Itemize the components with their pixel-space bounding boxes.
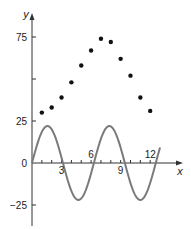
data-point [50, 105, 54, 109]
y-axis-label: y [22, 8, 30, 20]
y-tick-label: 75 [16, 32, 28, 43]
y-tick-label: −25 [10, 200, 27, 211]
x-tick-label: 6 [88, 149, 94, 160]
y-tick-label: 0 [21, 158, 27, 169]
data-point [59, 95, 63, 99]
y-axis-arrow-icon [30, 13, 35, 20]
chart: 3691275250−25xy [0, 0, 191, 229]
y-tick-label: 25 [16, 116, 28, 127]
tick-labels: 3691275250−25xy [10, 8, 183, 211]
data-point [40, 110, 44, 114]
data-point [69, 80, 73, 84]
data-point [118, 57, 122, 61]
data-point [79, 63, 83, 67]
data-point [109, 40, 113, 44]
scatter-points [40, 36, 153, 114]
x-tick-label: 12 [145, 149, 157, 160]
axes [30, 13, 184, 226]
x-tick-label: 9 [118, 165, 124, 176]
x-tick-label: 3 [59, 165, 65, 176]
data-point [89, 48, 93, 52]
data-point [128, 73, 132, 77]
data-point [138, 95, 142, 99]
data-point [99, 36, 103, 40]
x-axis-label: x [176, 165, 183, 177]
data-point [148, 109, 152, 113]
